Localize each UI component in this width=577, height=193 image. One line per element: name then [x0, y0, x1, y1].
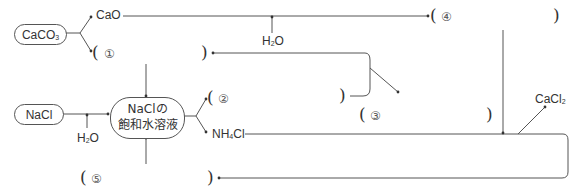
blank-4-close: )	[553, 7, 560, 24]
blank-3a-close: )	[339, 87, 346, 104]
h2o-left-label: H2O	[77, 132, 99, 144]
blank-3-marker: ③	[370, 110, 381, 122]
blank-3-close: )	[486, 106, 493, 123]
blank-3-open: (	[359, 106, 366, 123]
blank-1-close: )	[201, 44, 208, 61]
flow-lines	[0, 0, 577, 193]
blank-5-marker: ⑤	[91, 173, 102, 185]
cao-label: CaO	[96, 9, 121, 21]
saturated-solution-node: NaClの 飽和水溶液	[110, 97, 185, 139]
blank-2-marker: ②	[218, 93, 229, 105]
cacl2-label: CaCl2	[535, 93, 566, 105]
blank-5-close: )	[207, 169, 214, 186]
blank-5-open: (	[80, 169, 87, 186]
blank-2-open: (	[207, 89, 214, 106]
nacl-node: NaCl	[14, 104, 64, 125]
h2o-top-label: H2O	[262, 35, 284, 47]
blank-4-marker: ④	[441, 11, 452, 23]
blank-4-open: (	[430, 7, 437, 24]
blank-1-marker: ①	[104, 48, 115, 60]
nh4cl-label: NH4Cl	[212, 128, 245, 140]
blank-1-open: (	[92, 44, 99, 61]
caco3-node: CaCO3	[14, 24, 67, 45]
